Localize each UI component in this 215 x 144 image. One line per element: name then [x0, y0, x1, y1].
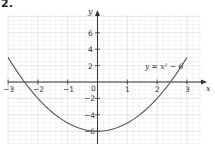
y-axis-label: y	[87, 7, 93, 16]
y-tick-label: 2	[88, 62, 93, 71]
x-tick-label: 1	[125, 85, 130, 94]
origin-label: 0	[91, 84, 96, 93]
x-tick-label: 2	[155, 85, 160, 94]
x-axis-label: x	[206, 84, 211, 93]
x-tick-label: −1	[63, 85, 74, 94]
y-tick-label: 4	[88, 45, 93, 54]
x-tick-label: 3	[185, 85, 190, 94]
y-tick-label: −2	[84, 94, 95, 103]
y-tick-label: 6	[88, 29, 93, 38]
y-tick-label: −4	[84, 111, 95, 120]
y-axis-arrow-icon	[95, 10, 100, 16]
equation-label: y = x² − 6	[144, 62, 184, 71]
x-tick-label: −3	[3, 85, 14, 94]
x-tick-label: −2	[33, 85, 44, 94]
graph: x y 0 −3 −2 −1 1 2 3 6 4 2 −2 −4 −6 y = …	[0, 0, 215, 144]
